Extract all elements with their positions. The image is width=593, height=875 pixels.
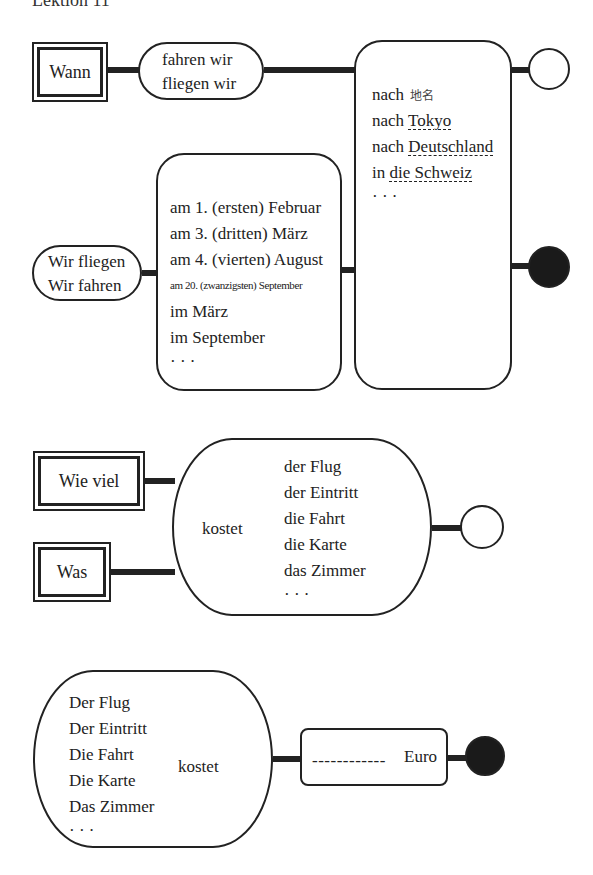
destination-place: Tokyo xyxy=(408,111,451,130)
destination-prefix: nach xyxy=(372,111,408,130)
answer-subject: Wir fliegen xyxy=(48,249,125,274)
statement-end-filled-circle-icon xyxy=(465,736,505,776)
date-item: im September xyxy=(170,325,265,350)
noun-item: die Fahrt xyxy=(284,506,345,531)
connector xyxy=(264,67,356,73)
verb-phrase: fahren wir xyxy=(162,47,232,72)
ellipsis: · · · xyxy=(284,582,309,607)
place-name-note: 地名 xyxy=(410,89,434,103)
destination-place: die Schweiz xyxy=(389,163,472,182)
answer-subject-box: Wir fliegen Wir fahren xyxy=(32,245,142,301)
connector xyxy=(108,67,140,73)
date-item: im März xyxy=(170,299,228,324)
question-word-box-was: Was xyxy=(33,542,111,602)
price-blank: ------------ xyxy=(312,748,386,773)
noun-item: Der Eintritt xyxy=(69,716,147,741)
question-end-open-circle-icon xyxy=(460,505,504,549)
connector xyxy=(273,756,303,762)
noun-item: Die Karte xyxy=(69,768,136,793)
date-item: am 20. (zwanzigsten) September xyxy=(170,273,302,298)
question-end-open-circle-icon xyxy=(528,48,570,90)
ellipsis: · · · xyxy=(69,818,94,843)
connector xyxy=(145,478,175,484)
ellipsis: · · · xyxy=(372,184,397,209)
currency: Euro xyxy=(404,744,437,769)
destination-box: nach地名 nach Tokyo nach Deutschland in di… xyxy=(354,40,512,390)
date-box: am 1. (ersten) Februar am 3. (dritten) M… xyxy=(156,153,342,391)
date-item: am 4. (vierten) August xyxy=(170,247,323,272)
verb: kostet xyxy=(178,754,219,779)
date-item: am 1. (ersten) Februar xyxy=(170,195,321,220)
noun-item: die Karte xyxy=(284,532,347,557)
destination-prefix: in xyxy=(372,163,389,182)
noun-item: der Flug xyxy=(284,454,341,479)
price-box: ------------ Euro xyxy=(300,728,448,786)
connector xyxy=(342,267,356,273)
ellipsis: · · · xyxy=(170,349,195,374)
verb: kostet xyxy=(202,516,243,541)
answer-subject: Wir fahren xyxy=(48,273,121,298)
statement-end-filled-circle-icon xyxy=(528,246,570,288)
verb-phrase-box: fahren wir fliegen wir xyxy=(138,42,264,100)
price-question-box: kostet der Flug der Eintritt die Fahrt d… xyxy=(172,438,432,616)
verb-phrase: fliegen wir xyxy=(162,71,236,96)
question-word-box-wie-viel: Wie viel xyxy=(33,451,145,511)
destination-prefix: nach xyxy=(372,137,408,156)
destination-prefix: nach xyxy=(372,85,404,104)
question-word: Wann xyxy=(37,47,103,97)
question-word: Wie viel xyxy=(38,456,140,506)
noun-item: Der Flug xyxy=(69,690,130,715)
noun-item: Die Fahrt xyxy=(69,742,134,767)
date-item: am 3. (dritten) März xyxy=(170,221,308,246)
noun-item: Das Zimmer xyxy=(69,794,154,819)
question-word-box-wann: Wann xyxy=(32,42,108,102)
noun-item: der Eintritt xyxy=(284,480,358,505)
connector xyxy=(111,569,175,575)
price-answer-box: Der Flug Der Eintritt Die Fahrt Die Kart… xyxy=(33,670,273,848)
question-word: Was xyxy=(38,547,106,597)
noun-item: das Zimmer xyxy=(284,558,366,583)
destination-place: Deutschland xyxy=(408,137,493,156)
lesson-title: Lektion 11 xyxy=(32,0,110,11)
